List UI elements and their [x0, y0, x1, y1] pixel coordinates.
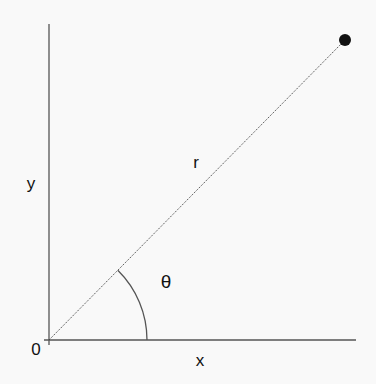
- radius-label: r: [193, 153, 199, 172]
- polar-diagram: y x 0 r θ: [0, 0, 376, 384]
- origin-label: 0: [31, 340, 40, 359]
- x-axis-label: x: [196, 351, 205, 370]
- angle-label: θ: [161, 271, 172, 292]
- point-marker: [339, 34, 351, 46]
- background: [0, 0, 376, 384]
- y-axis-label: y: [27, 174, 36, 193]
